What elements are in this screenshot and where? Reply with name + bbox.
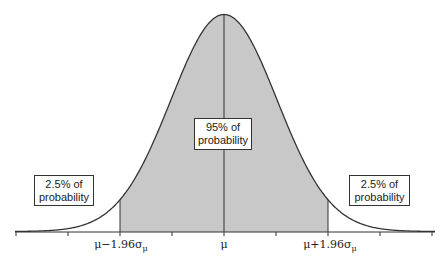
tick-upper-text: μ+1.96σ bbox=[303, 238, 351, 251]
center-label-line2: probability bbox=[195, 134, 251, 147]
tick-mean-text: μ bbox=[220, 238, 227, 251]
tick-label-upper: μ+1.96σμ bbox=[303, 238, 357, 253]
right-label-line2: probability bbox=[350, 191, 409, 204]
left-label-line1: 2.5% of bbox=[35, 178, 93, 191]
x-axis-ticks bbox=[16, 232, 432, 236]
tick-lower-text: μ−1.96σ bbox=[94, 238, 142, 251]
right-tail-label: 2.5% of probability bbox=[349, 175, 410, 206]
right-label-line1: 2.5% of bbox=[350, 178, 409, 191]
tick-label-lower: μ−1.96σμ bbox=[94, 238, 148, 253]
tick-lower-sub: μ bbox=[143, 244, 148, 253]
tick-upper-sub: μ bbox=[352, 244, 357, 253]
tick-label-mean: μ bbox=[220, 238, 227, 251]
left-label-line2: probability bbox=[35, 191, 93, 204]
left-tail-label: 2.5% of probability bbox=[34, 175, 94, 206]
center-label-line1: 95% of bbox=[195, 121, 251, 134]
center-probability-label: 95% of probability bbox=[194, 118, 252, 150]
